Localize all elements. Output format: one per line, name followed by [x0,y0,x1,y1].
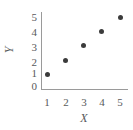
y-axis-title: Y [3,43,15,57]
x-tick-label-3: 3 [79,97,89,108]
x-tick-label-4: 4 [97,97,107,108]
data-point [81,43,86,48]
data-point [63,58,68,63]
x-tick-label-5: 5 [115,97,125,108]
y-axis-line [41,12,42,90]
data-point [99,29,104,34]
y-tick-label-4: 4 [27,27,37,38]
x-axis-title: X [77,112,91,124]
x-axis-line [41,89,128,90]
y-tick-label-1: 1 [27,68,37,79]
scatter-chart-figure: 5 4 3 2 1 0 1 2 3 4 5 Y X [0,0,133,130]
data-point [118,15,123,20]
x-tick-label-1: 1 [42,97,52,108]
data-point [45,72,50,77]
x-tick-label-2: 2 [61,97,71,108]
y-tick-label-3: 3 [27,42,37,53]
y-tick-label-5: 5 [27,12,37,23]
y-tick-label-0: 0 [27,81,37,92]
